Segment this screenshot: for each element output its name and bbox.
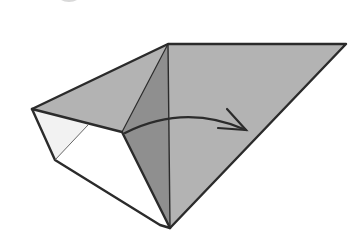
origami-diagram	[0, 0, 360, 237]
step-number-badge	[57, 0, 81, 2]
